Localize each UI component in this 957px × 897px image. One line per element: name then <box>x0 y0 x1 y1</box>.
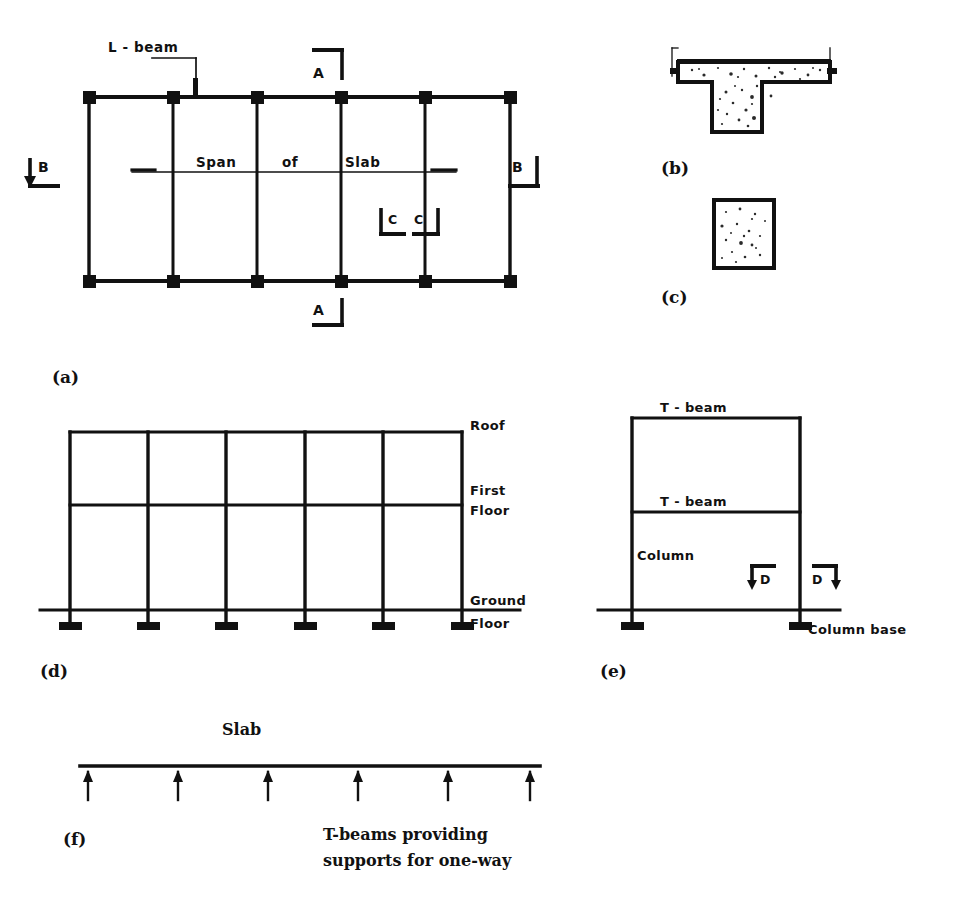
section-marker-b-left-label: B <box>38 159 49 175</box>
panel-b-key: (b) <box>661 158 689 178</box>
section-marker-a-top[interactable]: A <box>312 50 344 81</box>
panel-f-key: (f) <box>63 829 86 849</box>
l-beam-leader <box>152 58 198 95</box>
section-marker-d-left[interactable]: D <box>747 566 776 590</box>
section-marker-b-right[interactable]: B <box>508 156 540 186</box>
panel-e-footings <box>621 622 812 630</box>
section-marker-d-right[interactable]: D <box>812 566 841 590</box>
span-label-of: of <box>282 154 298 170</box>
plan-outer-frame <box>89 97 510 281</box>
first-floor-level-label-line1: First <box>470 483 506 498</box>
structural-figure: L - beam A A B B <box>0 0 957 897</box>
span-of-slab-centreline <box>132 170 456 172</box>
panel-d-columns <box>70 432 462 622</box>
support-arrow <box>443 770 453 800</box>
section-marker-b-right-label: B <box>512 159 523 175</box>
l-beam-label: L - beam <box>108 39 178 55</box>
span-label-slab: Slab <box>345 154 381 170</box>
t-beam-outline <box>678 62 830 132</box>
support-arrow <box>173 770 183 800</box>
support-arrow <box>83 770 93 800</box>
column-base-label: Column base <box>808 622 907 637</box>
panel-c-column-section: (c) <box>661 200 774 307</box>
section-marker-c-right-label: C <box>414 212 423 227</box>
panel-e-single-bay-frame: T - beam T - beam Column Column base <box>598 400 907 681</box>
panel-f-caption-line2: supports for one-way <box>323 851 512 870</box>
section-marker-a-bottom-label: A <box>313 302 324 318</box>
section-marker-d-left-label: D <box>760 572 770 587</box>
section-marker-c-left-label: C <box>388 212 397 227</box>
support-arrow <box>353 770 363 800</box>
plan-interior-gridlines <box>173 97 425 281</box>
panel-b-t-beam-section: (b) <box>661 48 837 178</box>
ground-floor-level-label-line2: Floor <box>470 616 510 631</box>
panel-d-frame-elevation: Roof First Floor Ground Floor (d) <box>40 418 526 681</box>
column-label: Column <box>637 548 694 563</box>
section-marker-a-top-label: A <box>313 65 324 81</box>
figure-canvas: L - beam A A B B <box>0 0 957 897</box>
panel-e-key: (e) <box>600 661 627 681</box>
section-marker-b-left[interactable]: B <box>24 158 60 188</box>
panel-f-slab-supports: Slab <box>63 720 540 870</box>
roof-level-label: Roof <box>470 418 505 433</box>
ground-floor-level-label-line1: Ground <box>470 593 526 608</box>
slab-label: Slab <box>222 720 261 739</box>
t-beam-upper-label: T - beam <box>660 400 727 415</box>
panel-d-key: (d) <box>40 661 68 681</box>
panel-d-footings <box>59 622 474 630</box>
panel-a-key: (a) <box>52 367 79 387</box>
panel-c-key: (c) <box>661 287 687 307</box>
support-arrow <box>263 770 273 800</box>
support-arrow <box>525 770 535 800</box>
section-marker-c-left[interactable]: C <box>379 208 406 236</box>
span-label-span: Span <box>196 154 237 170</box>
panel-f-caption-line1: T-beams providing <box>323 825 488 844</box>
panel-a-floor-plan: L - beam A A B B <box>24 39 540 387</box>
section-marker-d-right-label: D <box>812 572 822 587</box>
section-marker-a-bottom[interactable]: A <box>312 298 344 325</box>
t-beam-support-arrows <box>83 770 535 800</box>
plan-column-nodes <box>83 91 517 288</box>
t-beam-lower-label: T - beam <box>660 494 727 509</box>
first-floor-level-label-line2: Floor <box>470 503 510 518</box>
